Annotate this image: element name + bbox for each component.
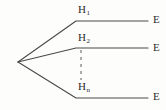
end-label-e2: E	[153, 42, 160, 53]
branch-2-path	[18, 48, 148, 62]
node-label-hn: Hn	[78, 81, 89, 92]
end-label-e3: E	[153, 91, 160, 102]
node-label-h2: H2	[78, 32, 89, 43]
diagram-canvas	[0, 0, 166, 110]
node-label-h1: H1	[78, 4, 89, 15]
node-label-h1-base: H	[78, 3, 86, 15]
node-label-h1-subscript: 1	[86, 9, 90, 17]
end-label-e1: E	[153, 14, 160, 25]
node-label-hn-subscript: n	[86, 86, 90, 94]
node-label-hn-base: H	[78, 80, 86, 92]
node-label-h2-subscript: 2	[86, 37, 90, 45]
node-label-h2-base: H	[78, 31, 86, 43]
branching-diagram: H1 H2 Hn E E E	[0, 0, 166, 110]
